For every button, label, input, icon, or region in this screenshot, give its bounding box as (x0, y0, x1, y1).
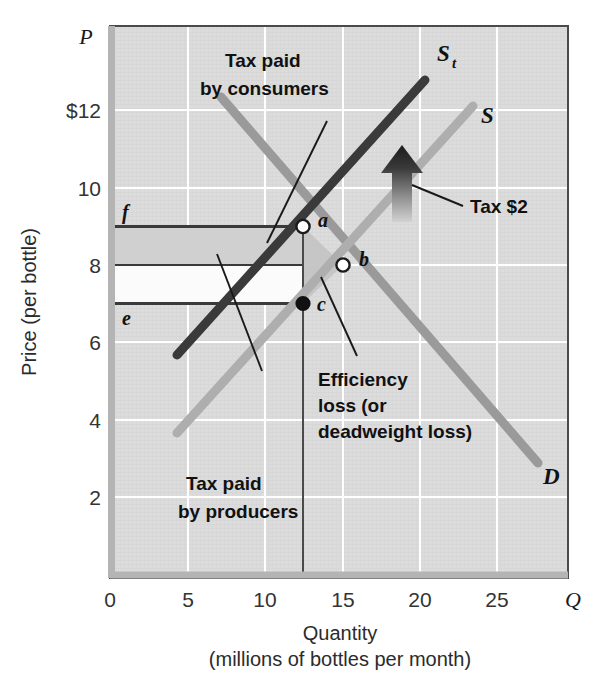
y-tick-10: 10 (78, 177, 101, 200)
annotation-tax-producers-line2: by producers (178, 501, 298, 522)
annotation-efficiency-loss-line2: loss (or (318, 395, 387, 416)
point-b (336, 258, 349, 271)
x-tick-0: 0 (104, 588, 116, 611)
x-axis-title: Quantity (303, 622, 377, 644)
label-point-c: c (317, 293, 326, 315)
annotation-efficiency-loss-line1: Efficiency (318, 369, 408, 390)
chart-svg: P Q $12 10 8 6 4 2 0 5 10 15 20 25 Price… (0, 0, 601, 679)
point-c (296, 297, 309, 310)
label-point-a: a (318, 209, 328, 231)
region-tax-paid-by-producers (110, 265, 303, 304)
x-tick-20: 20 (408, 588, 431, 611)
tax-incidence-figure: P Q $12 10 8 6 4 2 0 5 10 15 20 25 Price… (0, 0, 601, 679)
x-tick-15: 15 (331, 588, 354, 611)
x-axis-variable: Q (565, 587, 581, 612)
annotation-efficiency-loss-line3: deadweight loss) (318, 421, 472, 442)
supply-with-tax-label: S (437, 41, 450, 66)
point-a (296, 220, 309, 233)
label-e: e (122, 307, 131, 329)
x-tick-25: 25 (485, 588, 508, 611)
supply-label: S (481, 103, 494, 128)
annotation-tax-consumers-line1: Tax paid (225, 50, 301, 71)
y-tick-4: 4 (89, 409, 101, 432)
y-axis-title: Price (per bottle) (18, 228, 40, 376)
annotation-tax-producers-line1: Tax paid (186, 473, 262, 494)
y-tick-2: 2 (89, 486, 101, 509)
x-tick-10: 10 (253, 588, 276, 611)
annotation-tax-consumers-line2: by consumers (200, 78, 329, 99)
y-axis-variable: P (78, 24, 92, 49)
y-tick-6: 6 (89, 331, 101, 354)
x-axis-subtitle: (millions of bottles per month) (209, 648, 471, 670)
y-tick-8: 8 (89, 254, 101, 277)
y-tick-12: $12 (66, 99, 101, 122)
demand-label: D (542, 464, 560, 489)
x-tick-5: 5 (182, 588, 194, 611)
label-point-b: b (359, 248, 369, 270)
annotation-tax-amount: Tax $2 (470, 196, 528, 217)
